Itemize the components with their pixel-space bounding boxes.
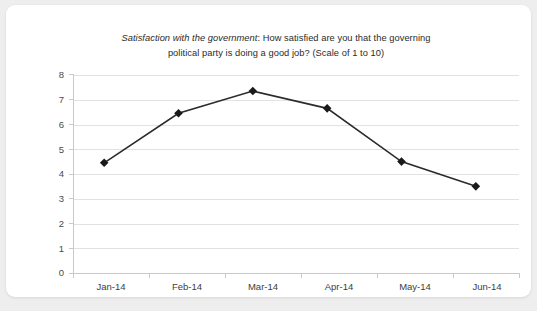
x-tick-label-apr-14: Apr-14 <box>301 281 377 292</box>
y-tick-mark-4 <box>69 174 73 175</box>
x-tick-mark-2 <box>225 273 226 278</box>
y-tick-label-8: 8 <box>42 69 64 80</box>
x-tick-mark-0 <box>73 273 74 278</box>
y-tick-label-1: 1 <box>42 243 64 254</box>
y-tick-mark-2 <box>69 223 73 224</box>
y-tick-mark-8 <box>69 74 73 75</box>
x-tick-mark-6 <box>519 273 520 278</box>
y-tick-label-3: 3 <box>42 193 64 204</box>
y-tick-label-6: 6 <box>42 119 64 130</box>
gridline-4 <box>73 174 519 175</box>
chart-card: Satisfaction with the government: How sa… <box>6 5 531 297</box>
y-axis-line <box>73 74 74 274</box>
x-tick-mark-1 <box>149 273 150 278</box>
chart-title-line2: political party is doing a good job? (Sc… <box>168 48 384 58</box>
y-tick-label-2: 2 <box>42 218 64 229</box>
y-tick-label-0: 0 <box>42 267 64 278</box>
gridline-5 <box>73 149 519 150</box>
gridline-3 <box>73 199 519 200</box>
x-tick-label-mar-14: Mar-14 <box>225 281 301 292</box>
x-tick-label-feb-14: Feb-14 <box>149 281 225 292</box>
gridline-6 <box>73 125 519 126</box>
chart-title-line1-rest: : How satisfied are you that the governi… <box>257 33 430 43</box>
x-tick-label-jun-14: Jun-14 <box>449 281 525 292</box>
gridline-7 <box>73 100 519 101</box>
chart-title-line1-italic: Satisfaction with the government <box>121 33 257 43</box>
x-tick-mark-5 <box>453 273 454 278</box>
x-tick-label-jan-14: Jan-14 <box>73 281 149 292</box>
gridline-1 <box>73 248 519 249</box>
x-tick-label-may-14: May-14 <box>377 281 453 292</box>
plot-area <box>73 75 519 273</box>
chart-title: Satisfaction with the government: How sa… <box>66 31 486 61</box>
y-tick-label-5: 5 <box>42 144 64 155</box>
y-tick-mark-3 <box>69 198 73 199</box>
y-tick-mark-1 <box>69 248 73 249</box>
gridline-2 <box>73 224 519 225</box>
gridline-8 <box>73 75 519 76</box>
y-tick-mark-6 <box>69 124 73 125</box>
x-tick-mark-3 <box>301 273 302 278</box>
y-tick-mark-7 <box>69 99 73 100</box>
y-tick-label-4: 4 <box>42 168 64 179</box>
y-tick-label-7: 7 <box>42 94 64 105</box>
x-tick-mark-4 <box>377 273 378 278</box>
y-tick-mark-5 <box>69 149 73 150</box>
